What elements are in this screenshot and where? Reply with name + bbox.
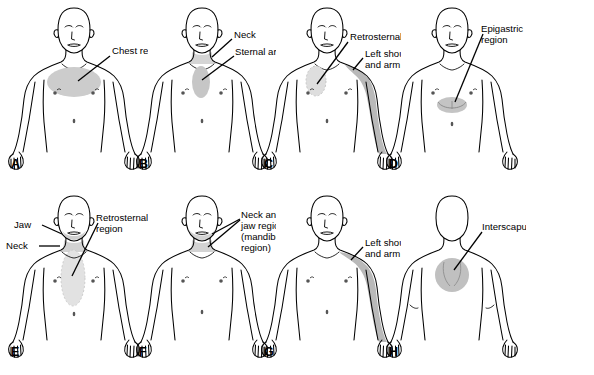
label-interscapular: Interscapular xyxy=(482,221,526,232)
region-neck xyxy=(187,240,217,252)
panel-letter-a: A xyxy=(11,157,20,171)
label-jaw: Jaw xyxy=(14,219,31,230)
label-epigastric: Epigastric xyxy=(481,23,523,34)
region-retrosternal xyxy=(306,66,326,96)
leader-line-interscapular xyxy=(454,232,482,270)
panel-letter-f: F xyxy=(139,345,147,359)
panel-d: Epigastric region D xyxy=(378,2,526,190)
caption-fragment xyxy=(0,370,260,375)
leader-line-neck xyxy=(212,39,232,57)
label-neck: Neck xyxy=(6,240,28,251)
region-retrosternal xyxy=(61,250,85,306)
panel-letter-h: H xyxy=(389,345,398,359)
region-sternal-area xyxy=(192,66,210,98)
panel-a: Chest region A xyxy=(0,2,148,190)
panel-letter-c: C xyxy=(264,157,273,171)
panel-letter-d: D xyxy=(389,157,398,171)
panel-letter-b: B xyxy=(139,157,148,171)
panel-e: Jaw Neck Retrosternal region E xyxy=(0,190,148,375)
panel-h: Interscapular H xyxy=(378,190,526,375)
panel-letter-g: G xyxy=(264,345,274,359)
panel-letter-e: E xyxy=(11,345,19,359)
leader-line-shoulder-arm xyxy=(351,247,363,260)
label-epigastric-region: region xyxy=(481,34,508,45)
region-neck xyxy=(187,52,217,64)
leader-line-shoulder-arm xyxy=(353,58,363,70)
label-retrosternal-region: region xyxy=(96,223,123,234)
figure-sheet: Chest region A xyxy=(0,0,594,375)
